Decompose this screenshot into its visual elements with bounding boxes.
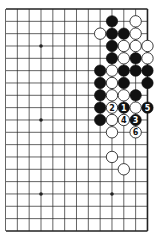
white-stone — [118, 40, 129, 51]
white-stone — [118, 53, 129, 64]
black-stone — [94, 65, 105, 76]
black-stone — [94, 90, 105, 101]
white-stone — [130, 40, 141, 51]
move-number: 1 — [121, 104, 127, 113]
black-stone — [118, 77, 129, 88]
black-stone — [94, 77, 105, 88]
white-stone — [118, 164, 129, 175]
white-stone-4: 4 — [118, 114, 129, 125]
move-number: 6 — [133, 128, 139, 137]
white-stone — [94, 28, 105, 39]
white-stone — [106, 77, 117, 88]
black-stone — [106, 28, 117, 39]
move-number: 4 — [121, 116, 127, 125]
white-stone — [130, 16, 141, 27]
black-stone — [106, 16, 117, 27]
white-stone — [142, 53, 153, 64]
black-stone-3: 3 — [130, 114, 141, 125]
white-stone — [118, 90, 129, 101]
go-board: 215436 — [0, 0, 160, 243]
star-point — [39, 44, 43, 48]
white-stone — [106, 90, 117, 101]
white-stone — [142, 40, 153, 51]
white-stone — [106, 65, 117, 76]
black-stone-5: 5 — [142, 102, 153, 113]
white-stone — [130, 28, 141, 39]
black-stone — [142, 65, 153, 76]
white-stone-6: 6 — [130, 127, 141, 138]
white-stone — [106, 114, 117, 125]
black-stone — [94, 102, 105, 113]
black-stone — [118, 28, 129, 39]
star-point — [39, 192, 43, 196]
white-stone — [106, 127, 117, 138]
move-number: 5 — [145, 104, 151, 113]
black-stone — [142, 77, 153, 88]
move-number: 2 — [109, 104, 115, 113]
white-stone — [106, 151, 117, 162]
white-stone-2: 2 — [106, 102, 117, 113]
star-point — [110, 192, 114, 196]
black-stone — [130, 90, 141, 101]
black-stone-1: 1 — [118, 102, 129, 113]
white-stone — [130, 102, 141, 113]
move-number: 3 — [133, 116, 139, 125]
black-stone — [130, 65, 141, 76]
black-stone — [130, 53, 141, 64]
star-point — [39, 118, 43, 122]
black-stone — [106, 53, 117, 64]
black-stone — [106, 40, 117, 51]
black-stone — [118, 65, 129, 76]
black-stone — [94, 114, 105, 125]
